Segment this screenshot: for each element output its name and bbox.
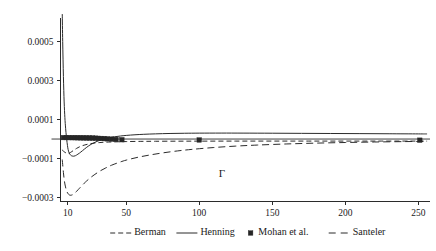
x-tick-label: 100 (192, 208, 207, 218)
series-path-henning (62, 14, 427, 156)
y-tick-label: 0.0005 (27, 37, 53, 47)
data-marker-square (120, 137, 125, 142)
data-marker-square (417, 138, 422, 143)
legend-item-berman[interactable]: Berman (110, 226, 166, 237)
series-path-santeler (62, 141, 427, 195)
x-tick-label: 250 (411, 208, 426, 218)
data-marker-square (114, 137, 119, 142)
legend-label: Santeler (353, 226, 386, 237)
x-tick-label: 10 (63, 208, 73, 218)
series-path-berman (62, 141, 427, 153)
legend-marker-square (248, 231, 253, 236)
legend-item-mohan-et-al[interactable]: Mohan et al. (248, 226, 308, 237)
chart-figure: 0.00050.00030.0001−0.0001−0.0003 1050100… (0, 0, 436, 251)
x-tick-label: 200 (338, 208, 353, 218)
y-tick-marks (57, 41, 61, 197)
legend-label: Henning (200, 226, 234, 237)
data-series-group (52, 14, 431, 195)
legend-label: Berman (134, 226, 166, 237)
gamma-annotation: Γ (219, 167, 225, 179)
data-marker-square (109, 137, 114, 142)
data-marker-square (105, 137, 110, 142)
y-tick-label: −0.0003 (22, 193, 54, 203)
x-tick-labels: 1050100150200250 (63, 208, 426, 218)
legend-item-santeler[interactable]: Santeler (329, 226, 386, 237)
x-tick-label: 150 (265, 208, 280, 218)
data-marker-square (197, 138, 202, 143)
legend-item-henning[interactable]: Henning (176, 226, 234, 237)
legend-label: Mohan et al. (258, 226, 308, 237)
y-tick-label: −0.0001 (22, 154, 54, 164)
y-tick-label: 0.0001 (27, 115, 53, 125)
axes-group (57, 18, 430, 205)
chart-canvas: 0.00050.00030.0001−0.0001−0.0003 1050100… (0, 0, 436, 251)
x-tick-marks (68, 202, 419, 206)
y-tick-labels: 0.00050.00030.0001−0.0001−0.0003 (22, 37, 54, 203)
x-tick-label: 50 (121, 208, 131, 218)
y-tick-label: 0.0003 (27, 76, 53, 86)
chart-legend: BermanHenningMohan et al.Santeler (110, 226, 386, 237)
